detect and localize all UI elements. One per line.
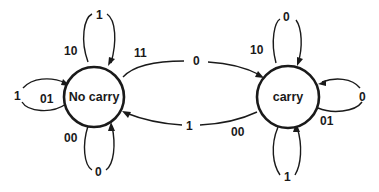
loop-no-carry-top: 1 10 <box>64 8 115 66</box>
arrowhead-icon <box>108 57 115 66</box>
edge-output-label: 0 <box>193 54 200 68</box>
state-label: No carry <box>69 90 120 104</box>
edge-input-label: 01 <box>40 92 54 106</box>
edge-input-label: 10 <box>64 44 78 58</box>
state-diagram: 1 10 1 01 0 00 11 0 1 00 0 10 <box>0 0 379 192</box>
state-carry: carry <box>257 66 319 128</box>
edge-output-label: 1 <box>14 89 21 103</box>
edge-input-label: 00 <box>231 125 245 139</box>
edge-no-carry-to-carry: 11 0 <box>123 46 264 78</box>
edge-output-label: 1 <box>186 119 193 133</box>
loop-no-carry-bottom: 0 00 <box>64 122 115 179</box>
arrowhead-icon <box>122 111 131 118</box>
edge-output-label: 0 <box>95 165 102 179</box>
edge-output-label: 0 <box>359 90 366 104</box>
loop-no-carry-left: 1 01 <box>14 79 70 111</box>
edge-input-label: 01 <box>320 114 334 128</box>
edge-carry-to-no-carry: 1 00 <box>122 111 257 139</box>
arrowhead-icon <box>255 71 264 78</box>
edge-output-label: 1 <box>284 170 291 184</box>
loop-carry-bottom: 1 <box>273 123 300 184</box>
loop-carry-right: 0 01 <box>318 79 366 128</box>
state-no-carry: No carry <box>64 67 124 127</box>
loop-carry-top: 0 10 <box>250 10 303 66</box>
arrowhead-icon <box>318 80 326 86</box>
edge-input-label: 00 <box>64 131 78 145</box>
state-label: carry <box>273 90 304 104</box>
edge-input-label: 10 <box>250 43 264 57</box>
edge-output-label: 0 <box>283 10 290 24</box>
edge-output-label: 1 <box>96 8 103 22</box>
arrowhead-icon <box>297 57 303 66</box>
edge-input-label: 11 <box>134 46 147 60</box>
